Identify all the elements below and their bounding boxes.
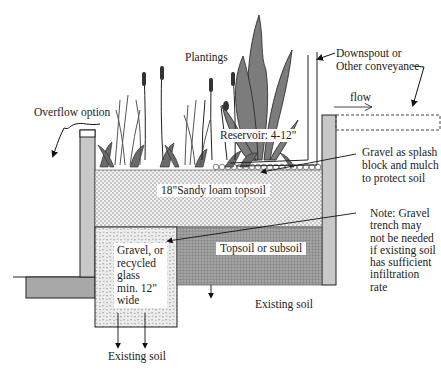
gravel-splash-label-line: Gravel as splash bbox=[362, 146, 439, 159]
sandy-loam-label: 18"Sandy loam topsoil bbox=[157, 184, 270, 197]
gravel-splash-label: Gravel as splash block and mulch to prot… bbox=[362, 146, 439, 185]
overflow-label: Overflow option bbox=[34, 106, 110, 119]
conveyance-dashed-pipe bbox=[336, 115, 440, 130]
existing-soil-right-label: Existing soil bbox=[255, 298, 313, 311]
plantings-label: Plantings bbox=[185, 51, 228, 64]
note-label-line: not be needed bbox=[370, 232, 436, 244]
topsoil-subsoil-label: Topsoil or subsoil bbox=[216, 242, 306, 255]
note-label-line: rate bbox=[370, 281, 436, 293]
plantings-group bbox=[98, 15, 298, 167]
flow-label: flow bbox=[350, 91, 371, 104]
sandy-loam-layer bbox=[95, 170, 322, 227]
existing-soil-bottom-label: Existing soil bbox=[108, 350, 166, 363]
gravel-trench-label-line: recycled bbox=[117, 257, 164, 270]
subsoil-layer bbox=[177, 227, 322, 285]
downspout-label-line: Downspout or bbox=[336, 47, 419, 60]
note-label-line: trench may bbox=[370, 219, 436, 231]
note-label: Note: Gravel trench may not be needed if… bbox=[370, 207, 436, 293]
gravel-splash-label-line: to protect soil bbox=[362, 172, 439, 185]
gravel-trench-label-line: glass bbox=[117, 269, 164, 282]
reservoir-label: Reservoir: 4-12" bbox=[216, 129, 301, 142]
downspout-leader bbox=[318, 53, 335, 59]
gravel-trench-label-line: Gravel, or bbox=[117, 244, 164, 257]
downspout-label-line: Other conveyance bbox=[336, 60, 419, 73]
gravel-trench-label: Gravel, or recycled glass min. 12" wide bbox=[114, 243, 167, 308]
note-label-line: Note: Gravel bbox=[370, 207, 436, 219]
gravel-trench-label-line: wide bbox=[117, 294, 164, 307]
right-wall bbox=[322, 115, 336, 285]
note-label-line: infiltration bbox=[370, 268, 436, 280]
foundation-footing bbox=[26, 277, 95, 298]
left-wall bbox=[80, 130, 95, 277]
left-wall-cap bbox=[80, 130, 95, 137]
gravel-splash-label-line: block and mulch bbox=[362, 159, 439, 172]
rain-garden-diagram: Plantings Downspout or Other conveyance … bbox=[0, 0, 441, 376]
note-label-line: has sufficient bbox=[370, 256, 436, 268]
note-label-line: if existing soil bbox=[370, 244, 436, 256]
gravel-trench-label-line: min. 12" bbox=[117, 282, 164, 295]
downspout-label: Downspout or Other conveyance bbox=[336, 47, 419, 73]
